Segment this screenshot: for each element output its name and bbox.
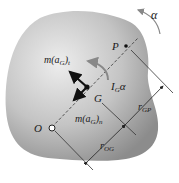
- kinetics-diagram: α P G O m(aG)t m(aG)n IGα rGP rOG: [0, 0, 179, 183]
- point-g-label: G: [94, 92, 102, 104]
- diagram-canvas: α P G O m(aG)t m(aG)n IGα rGP rOG: [0, 0, 179, 183]
- point-o-pin: [49, 125, 55, 131]
- point-o-label: O: [34, 122, 42, 134]
- rigid-body: [6, 11, 159, 161]
- point-g-dot: [84, 84, 89, 89]
- alpha-label: α: [151, 8, 158, 22]
- point-p-dot: [124, 44, 128, 48]
- point-p-label: P: [111, 40, 119, 52]
